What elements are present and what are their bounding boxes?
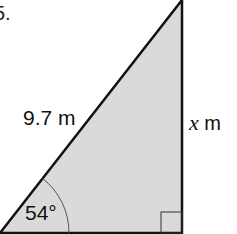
variable-x: x <box>189 110 199 135</box>
angle-label: 54° <box>25 201 57 225</box>
unit: m <box>204 112 221 134</box>
hypotenuse-label: 9.7 m <box>23 106 76 130</box>
opposite-side-label: x m <box>189 110 221 136</box>
